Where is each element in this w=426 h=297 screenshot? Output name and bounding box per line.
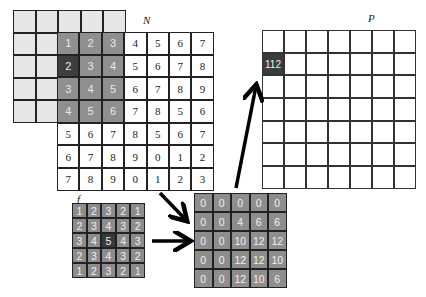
arrow-product-to-p-icon	[236, 86, 256, 188]
arrows-layer	[0, 0, 426, 297]
arrow-n-to-product-icon	[160, 193, 186, 220]
